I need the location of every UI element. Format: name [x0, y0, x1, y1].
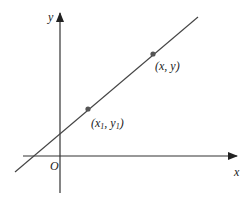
point-x-y: [150, 51, 155, 56]
coordinate-diagram: y x O (x, y) (x1, y1): [0, 0, 248, 200]
point-x-y-label: (x, y): [155, 59, 180, 73]
straight-line: [15, 17, 198, 172]
origin-label: O: [50, 159, 59, 173]
x-axis-label: x: [233, 165, 240, 179]
y-axis-label: y: [47, 10, 54, 24]
point-x1-y1-label: (x1, y1): [91, 116, 124, 131]
point-x1-y1: [85, 106, 90, 111]
